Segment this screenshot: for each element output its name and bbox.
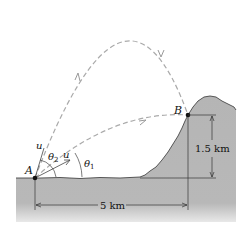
velocity-label-upper: u	[36, 140, 42, 151]
theta1-label: θ1	[84, 158, 95, 171]
projectile-diagram: A B u u θ2 θ1 1.5 km 5 km	[0, 0, 251, 234]
theta1-arc	[75, 153, 82, 177]
height-dimension-label: 1.5 km	[195, 143, 230, 154]
theta1-subscript: 1	[90, 163, 94, 171]
high-trajectory-arrow-up	[75, 73, 80, 81]
point-b-label: B	[173, 104, 182, 117]
velocity-label-lower: u	[63, 149, 69, 160]
horizontal-dimension-label: 5 km	[100, 200, 126, 211]
high-trajectory-arrow-down	[158, 50, 164, 57]
velocity-vector-upper	[35, 148, 44, 178]
point-a-label: A	[24, 164, 33, 177]
theta2-subscript: 2	[54, 156, 58, 164]
theta2-label: θ2	[48, 151, 59, 164]
point-a-marker	[33, 176, 38, 181]
velocity-vector-lower	[35, 160, 70, 178]
low-trajectory-arrow	[139, 120, 146, 125]
